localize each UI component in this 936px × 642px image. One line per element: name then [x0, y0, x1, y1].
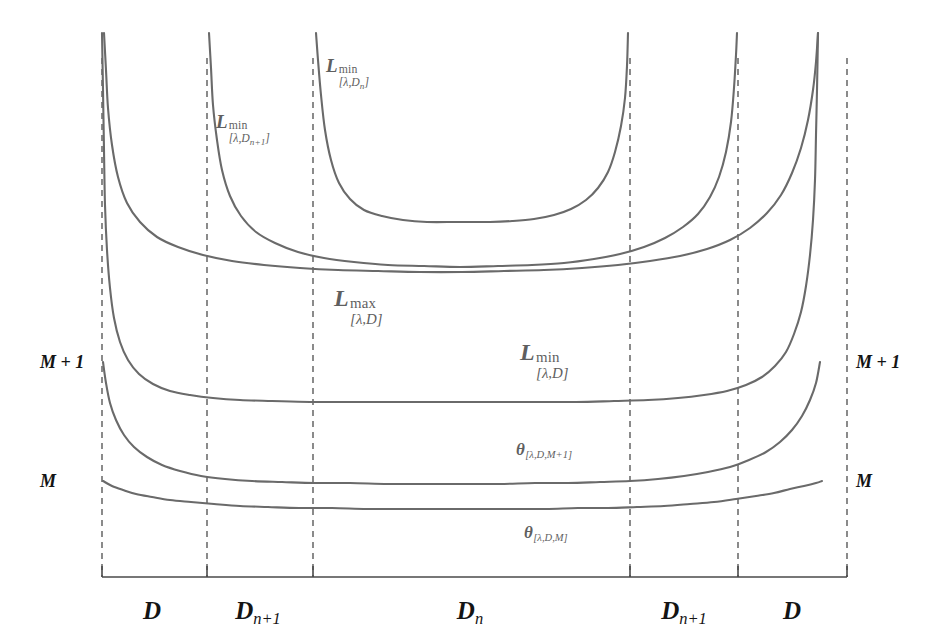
label-theta-m-plus-1: θ[λ,D,M+1] [516, 441, 572, 458]
region-D-left-base: D [143, 598, 161, 623]
label-lmax-d-base: L [334, 286, 349, 310]
region-Dn-center: Dn [457, 598, 483, 623]
axis-group [102, 566, 847, 577]
label-lmin-d-base: L [520, 340, 535, 364]
label-lmin-dn-subscript-index: n [360, 81, 365, 91]
region-Dn1-right-subscript: n+1 [679, 611, 707, 628]
region-Dn1-right: Dn+1 [661, 598, 707, 623]
label-theta-m-subscript: [λ,D,M] [533, 533, 567, 544]
label-lmax-d-superscript: max [350, 296, 376, 311]
left-value-m-plus-1: M + 1 [40, 353, 84, 371]
region-D-right: D [783, 598, 801, 623]
left-value-m: M [40, 472, 56, 490]
label-lmin-dn1: Lmin[λ,Dn+1] [216, 112, 270, 146]
region-Dn1-right-base: D [661, 598, 679, 623]
label-lmin-d-subscript: [λ,D] [536, 366, 569, 381]
curve-4 [103, 362, 820, 484]
label-lmin-dn: Lmin[λ,Dn] [326, 56, 369, 90]
label-theta-m-base: θ [524, 524, 533, 541]
plot-svg [0, 0, 936, 642]
right-value-m-plus-1: M + 1 [856, 353, 900, 371]
region-Dn-center-base: D [457, 598, 475, 623]
curves-group [102, 33, 822, 509]
region-Dn1-left-base: D [235, 598, 253, 623]
curve-3 [102, 33, 818, 402]
figure-canvas: DDn+1DnDn+1D M + 1MM + 1M Lmin[λ,Dn]Lmin… [0, 0, 936, 642]
region-Dn1-left-subscript: n+1 [253, 611, 281, 628]
label-lmax-d: Lmax[λ,D] [334, 286, 383, 324]
label-lmin-dn-base: L [326, 56, 338, 75]
label-lmin-dn-subscript: [λ,Dn] [339, 77, 369, 92]
right-value-m: M [856, 472, 872, 490]
curve-1 [209, 33, 737, 267]
label-lmin-dn1-superscript: min [229, 120, 248, 132]
label-lmin-dn1-subscript-index: n+1 [250, 137, 265, 147]
region-D-right-base: D [783, 598, 801, 623]
label-theta-m: θ[λ,D,M] [524, 524, 568, 541]
label-lmin-dn-superscript: min [339, 64, 358, 76]
label-lmin-d: Lmin[λ,D] [520, 340, 569, 378]
label-lmin-d-superscript: min [536, 350, 560, 365]
region-Dn-center-subscript: n [475, 611, 483, 628]
label-lmin-dn1-base: L [216, 112, 228, 131]
label-lmax-d-subscript: [λ,D] [350, 312, 383, 327]
region-D-left: D [143, 598, 161, 623]
label-theta-m-plus-1-base: θ [516, 441, 525, 458]
label-theta-m-plus-1-subscript: [λ,D,M+1] [525, 450, 572, 461]
label-lmin-dn1-subscript: [λ,Dn+1] [229, 133, 270, 148]
curve-5 [103, 481, 822, 509]
region-Dn1-left: Dn+1 [235, 598, 281, 623]
